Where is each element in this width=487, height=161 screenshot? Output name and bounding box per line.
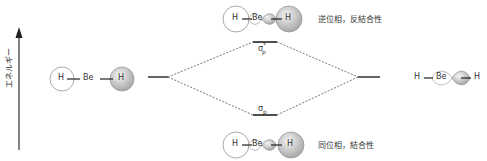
right-molecule-orbitals	[424, 71, 471, 85]
star-superscript: *	[263, 41, 266, 48]
antibonding-atom-h-left: H	[232, 13, 238, 22]
bonding-atom-h-left: H	[232, 139, 238, 148]
atom-label-h-left: H	[58, 73, 64, 82]
antibonding-atom-be: Be	[252, 13, 262, 22]
right-atom-h-left: H	[414, 72, 420, 81]
energy-axis-label: エネルギー	[3, 48, 14, 88]
bonding-orbital-symbol: σp	[258, 104, 267, 113]
atom-label-be: Be	[83, 73, 93, 82]
p-subscript: p	[262, 48, 266, 55]
antibonding-orbital-symbol: σ*p	[258, 44, 270, 53]
bonding-atom-h-right: H	[287, 139, 293, 148]
bonding-description: 同位相，結合性	[318, 139, 374, 150]
atom-label-h-right: H	[118, 73, 124, 82]
energy-axis-arrow	[16, 27, 23, 150]
p-subscript: p	[263, 108, 267, 115]
bonding-atom-be: Be	[252, 139, 262, 148]
right-atom-be: Be	[436, 72, 446, 81]
antibonding-atom-h-right: H	[285, 13, 291, 22]
right-atom-h-right: H	[474, 72, 480, 81]
antibonding-description: 逆位相，反結合性	[318, 13, 382, 24]
